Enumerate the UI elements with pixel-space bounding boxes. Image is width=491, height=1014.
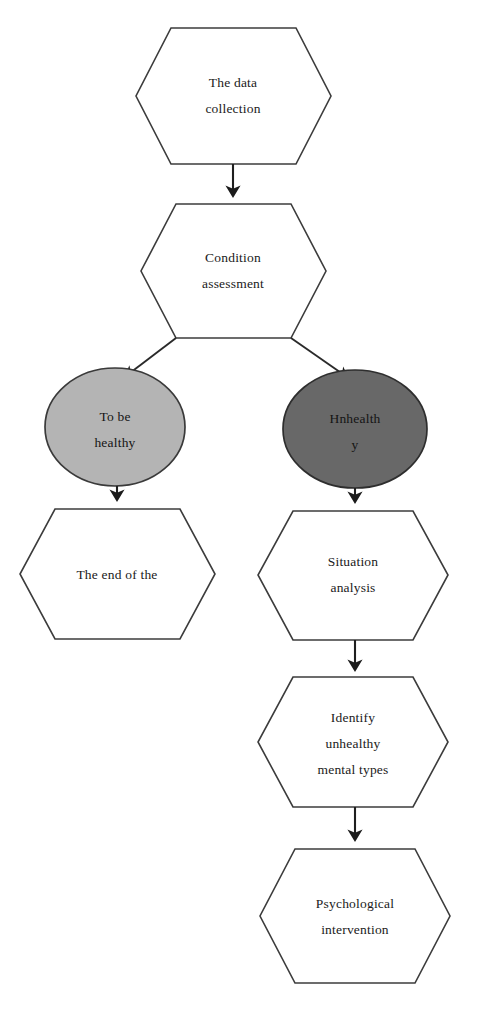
node-label-line-1: To be — [99, 409, 130, 424]
node-label-line-2: intervention — [321, 922, 389, 937]
flowchart-canvas: The data collection Condition assessment… — [0, 0, 491, 1014]
node-psychological-intervention[interactable]: Psychological intervention — [260, 849, 450, 983]
node-label-line-1: Psychological — [316, 896, 394, 911]
node-label-line-2: collection — [205, 101, 260, 116]
node-unhealthy[interactable]: Hnhealth y — [283, 370, 427, 488]
node-the-end-of-the[interactable]: The end of the — [20, 509, 215, 639]
node-label-line-2: y — [352, 437, 359, 452]
node-label-line-2: healthy — [94, 435, 135, 450]
node-label-line-1: Identify — [331, 710, 375, 725]
node-label-line-2: analysis — [330, 580, 375, 595]
node-label-line-1: Situation — [328, 554, 379, 569]
node-label-line-2: unhealthy — [325, 736, 380, 751]
hexagon-shape — [258, 511, 448, 640]
hexagon-shape — [136, 28, 331, 164]
node-situation-analysis[interactable]: Situation analysis — [258, 511, 448, 640]
node-label-line-1: Condition — [205, 250, 261, 265]
node-label-line-3: mental types — [317, 762, 388, 777]
node-to-be-healthy[interactable]: To be healthy — [45, 368, 185, 486]
node-label-line-1: The end of the — [76, 567, 157, 582]
node-label-line-1: Hnhealth — [329, 411, 380, 426]
node-identify-unhealthy-mental-types[interactable]: Identify unhealthy mental types — [258, 677, 448, 807]
node-data-collection[interactable]: The data collection — [136, 28, 331, 164]
flowchart-svg: The data collection Condition assessment… — [0, 0, 491, 1014]
ellipse-shape — [283, 370, 427, 488]
hexagon-shape — [260, 849, 450, 983]
ellipse-shape — [45, 368, 185, 486]
node-condition-assessment[interactable]: Condition assessment — [141, 204, 326, 338]
node-label-line-2: assessment — [202, 276, 264, 291]
node-label-line-1: The data — [209, 75, 257, 90]
hexagon-shape — [141, 204, 326, 338]
